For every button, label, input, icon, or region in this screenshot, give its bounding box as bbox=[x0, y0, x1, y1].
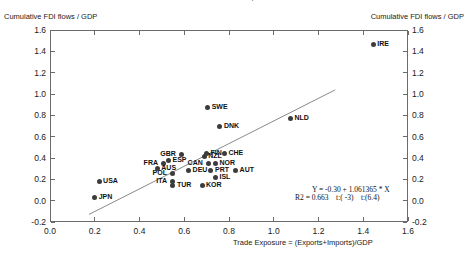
data-point-label: PRT bbox=[215, 166, 229, 173]
data-point-label: ISL bbox=[219, 173, 230, 180]
data-point-label: ITA bbox=[156, 177, 167, 184]
x-axis-label: Trade Exposure = (Exports+Imports)/GDP bbox=[233, 238, 373, 247]
y-tick-label: 1.0 bbox=[20, 89, 46, 99]
x-tick-label: 1.2 bbox=[304, 226, 334, 236]
y-tick-label: 0.4 bbox=[20, 153, 46, 163]
chart-container: FDI and Trade Exposure Cumulative FDI fl… bbox=[0, 0, 468, 258]
data-point-label: AUT bbox=[240, 166, 254, 173]
data-point bbox=[288, 116, 293, 121]
y-axis-label-left: Cumulative FDI flows / GDP bbox=[4, 12, 97, 21]
y-tick-label: 1.6 bbox=[20, 25, 46, 35]
data-point-label: IRE bbox=[377, 40, 389, 47]
x-tick-label: 1.0 bbox=[259, 226, 289, 236]
data-point bbox=[202, 154, 207, 159]
y-tick-label: 0.0 bbox=[20, 196, 46, 206]
data-point bbox=[166, 158, 171, 163]
x-tick-label: 1.4 bbox=[348, 226, 378, 236]
data-point-label: USA bbox=[103, 177, 118, 184]
data-point-label: TUR bbox=[177, 181, 191, 188]
y-axis-label-right: Cumulative FDI flows / GDP bbox=[371, 12, 464, 21]
data-point-label: KOR bbox=[206, 181, 222, 188]
y-tick-label: 0.2 bbox=[412, 174, 438, 184]
y-tick-label: 0.4 bbox=[412, 153, 438, 163]
data-point-label: SWE bbox=[212, 103, 228, 110]
x-tick-label: 1.6 bbox=[393, 226, 423, 236]
y-tick-label: 0.6 bbox=[20, 132, 46, 142]
data-point bbox=[200, 183, 205, 188]
y-tick-label: 1.2 bbox=[20, 68, 46, 78]
y-tick-label: 0.8 bbox=[412, 110, 438, 120]
y-tick-label: 1.4 bbox=[20, 46, 46, 56]
x-tick-label: 0.2 bbox=[80, 226, 110, 236]
y-tick-label: 1.6 bbox=[412, 25, 438, 35]
x-tick-label: 0.6 bbox=[169, 226, 199, 236]
data-point bbox=[222, 151, 227, 156]
y-tick-label: 0.8 bbox=[20, 110, 46, 120]
x-tick-label: 0.0 bbox=[35, 226, 65, 236]
y-tick-label: 0.6 bbox=[412, 132, 438, 142]
x-tick-label: 0.4 bbox=[125, 226, 155, 236]
data-point-label: POL bbox=[153, 169, 167, 176]
data-point bbox=[186, 168, 191, 173]
y-tick-label: 1.0 bbox=[412, 89, 438, 99]
data-point-label: CHE bbox=[228, 149, 243, 156]
data-point-label: DNK bbox=[224, 122, 239, 129]
data-point-label: NLD bbox=[294, 114, 308, 121]
data-point-label: ESP bbox=[172, 156, 186, 163]
data-point-label: DEU bbox=[193, 166, 208, 173]
y-tick-label: 0.0 bbox=[412, 196, 438, 206]
y-tick-label: 1.4 bbox=[412, 46, 438, 56]
y-tick-label: 0.2 bbox=[20, 174, 46, 184]
regression-statistics: R2 = 0.663 t:( -3) t:(6.4) bbox=[295, 193, 379, 202]
chart-title: FDI and Trade Exposure bbox=[0, 0, 468, 1]
x-tick-label: 0.8 bbox=[214, 226, 244, 236]
y-tick-label: 1.2 bbox=[412, 68, 438, 78]
data-point-label: JPN bbox=[99, 193, 113, 200]
data-point-label: NZL bbox=[208, 152, 222, 159]
